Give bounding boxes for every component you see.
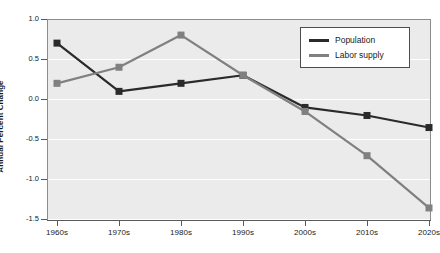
y-tick-mark bbox=[41, 59, 47, 60]
x-tick-mark bbox=[57, 221, 58, 226]
x-tick-mark bbox=[181, 221, 182, 226]
axis-line-right bbox=[430, 19, 431, 220]
x-tick-label-1970s: 1970s bbox=[108, 229, 130, 237]
legend-swatch-population bbox=[309, 39, 329, 42]
legend-label-labor-supply: Labor supply bbox=[335, 51, 384, 60]
axis-line-top bbox=[47, 19, 431, 20]
y-tick-label-0-0: 0.0 bbox=[29, 95, 39, 103]
y-tick-mark bbox=[41, 179, 47, 180]
gridline--0.5 bbox=[47, 139, 431, 140]
x-tick-label-1960s: 1960s bbox=[46, 229, 68, 237]
axis-line-bottom bbox=[47, 220, 431, 221]
x-tick-label-2010s: 2010s bbox=[356, 229, 378, 237]
legend-entry-labor-supply: Labor supply bbox=[309, 48, 409, 63]
legend-entry-population: Population bbox=[309, 33, 409, 48]
x-tick-mark bbox=[119, 221, 120, 226]
x-tick-label-2000s: 2000s bbox=[294, 229, 316, 237]
legend-swatch-labor-supply bbox=[309, 54, 329, 57]
legend-label-population: Population bbox=[335, 36, 375, 45]
gridline-0.0 bbox=[47, 99, 431, 100]
chart-legend: Population Labor supply bbox=[300, 27, 410, 68]
y-tick-mark bbox=[41, 219, 47, 220]
y-tick-label-0-5: 0.5 bbox=[29, 55, 39, 63]
x-tick-label-1980s: 1980s bbox=[170, 229, 192, 237]
x-tick-label-2020s: 2020s bbox=[418, 229, 440, 237]
x-tick-mark bbox=[243, 221, 244, 226]
x-tick-mark bbox=[429, 221, 430, 226]
axis-line-left bbox=[47, 19, 48, 220]
y-tick-mark bbox=[41, 19, 47, 20]
y-tick-label--0-5: -0.5 bbox=[26, 135, 39, 143]
y-tick-mark bbox=[41, 139, 47, 140]
gridline--1.0 bbox=[47, 179, 431, 180]
x-tick-mark bbox=[367, 221, 368, 226]
y-axis-title: Annual Percent Change bbox=[0, 0, 26, 253]
y-tick-label--1-5: -1.5 bbox=[26, 215, 39, 223]
y-tick-mark bbox=[41, 99, 47, 100]
x-tick-mark bbox=[305, 221, 306, 226]
y-tick-label--1-0: -1.0 bbox=[26, 175, 39, 183]
x-tick-label-1990s: 1990s bbox=[232, 229, 254, 237]
y-tick-label-1-0: 1.0 bbox=[29, 15, 39, 23]
